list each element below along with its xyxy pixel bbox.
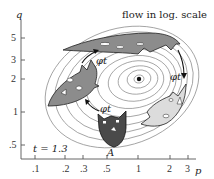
- arrow-bottom-to-left: [87, 102, 99, 111]
- y-tick-1: 1: [13, 106, 18, 117]
- x-tick-0.3: .3: [80, 163, 88, 174]
- x-tick-2: 2: [167, 163, 172, 174]
- y-tick-2: 2: [11, 73, 16, 84]
- flow-label-top: φt: [96, 55, 108, 66]
- x-tick-0.5: .5: [103, 163, 111, 174]
- time-label: t = 1.3: [33, 143, 68, 154]
- y-tick-5: 5: [11, 32, 16, 43]
- x-tick-0.2: .2: [62, 163, 70, 174]
- y-tick-0.5: .5: [9, 139, 17, 150]
- flow-label-right: φt: [170, 71, 182, 82]
- y-tick-3: 3: [11, 54, 16, 65]
- x-tick-0.1: .1: [32, 163, 40, 174]
- top-mask-shape: [63, 33, 180, 54]
- x-tick-3: 3: [185, 163, 190, 174]
- y-axis-label: q: [16, 9, 22, 20]
- x-tick-1: 1: [136, 163, 141, 174]
- flow-label-bottom: φt: [100, 103, 112, 114]
- x-axis-label: p: [195, 165, 202, 176]
- fixed-point-dot: [137, 77, 141, 81]
- initial-mask-shape-A: [98, 111, 126, 147]
- phase-flow-figure: φt φt φt flow in log. scale t = 1.3 A q …: [0, 0, 214, 179]
- figure-title: flow in log. scale: [122, 9, 207, 20]
